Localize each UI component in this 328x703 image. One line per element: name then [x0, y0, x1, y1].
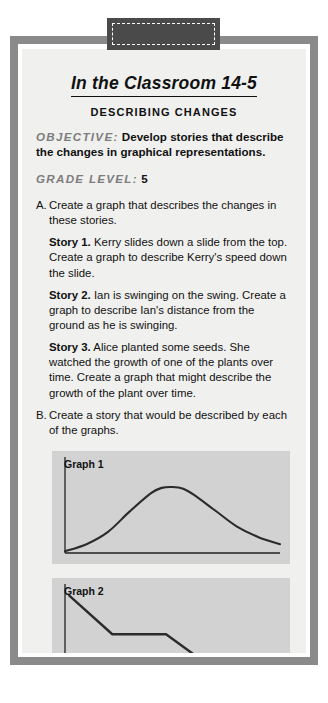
- title-container: In the Classroom 14-5: [36, 73, 292, 97]
- list-item: B. Create a story that would be describe…: [36, 408, 292, 438]
- story-label: Story 1.: [49, 236, 91, 248]
- objective-row: OBJECTIVE: Develop stories that describe…: [36, 129, 292, 160]
- graph-2-curve: [69, 596, 280, 653]
- worksheet-page: In the Classroom 14-5 DESCRIBING CHANGES…: [0, 0, 328, 703]
- graph-2: Graph 2: [52, 578, 290, 653]
- dashed-tab: [107, 18, 220, 50]
- page-content: In the Classroom 14-5 DESCRIBING CHANGES…: [22, 49, 306, 653]
- graph-1-curve: [65, 487, 280, 551]
- story-label: Story 3.: [49, 341, 91, 353]
- graph-1: Graph 1: [52, 451, 290, 564]
- story-item: Story 3. Alice planted some seeds. She w…: [49, 340, 292, 401]
- list-item-marker: A.: [36, 198, 49, 228]
- page-subtitle: DESCRIBING CHANGES: [36, 106, 292, 118]
- grade-level-row: GRADE LEVEL: 5: [36, 171, 292, 186]
- graph-1-label: Graph 1: [64, 458, 104, 470]
- list-item-text: Create a story that would be described b…: [49, 408, 292, 438]
- objective-label: OBJECTIVE:: [36, 130, 119, 143]
- list-item-marker: B.: [36, 408, 49, 438]
- grade-level-value: 5: [141, 172, 147, 185]
- page-title: In the Classroom 14-5: [71, 73, 257, 97]
- dashed-tab-border: [112, 23, 215, 45]
- story-label: Story 2.: [49, 289, 91, 301]
- story-item: Story 1. Kerry slides down a slide from …: [49, 235, 292, 280]
- grade-level-label: GRADE LEVEL:: [36, 172, 138, 185]
- page-frame: In the Classroom 14-5 DESCRIBING CHANGES…: [10, 36, 318, 665]
- story-item: Story 2. Ian is swinging on the swing. C…: [49, 288, 292, 333]
- task-list: A. Create a graph that describes the cha…: [36, 198, 292, 438]
- page-inner-sheet: In the Classroom 14-5 DESCRIBING CHANGES…: [18, 44, 310, 657]
- list-item: A. Create a graph that describes the cha…: [36, 198, 292, 228]
- list-item-text: Create a graph that describes the change…: [49, 198, 292, 228]
- graph-2-label: Graph 2: [64, 585, 104, 597]
